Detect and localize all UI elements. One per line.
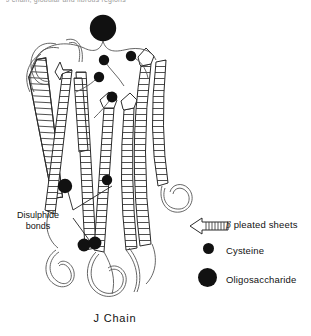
legend-label-beta-sheets-rest: pleated sheets <box>231 219 298 230</box>
cysteine-marker <box>94 72 104 82</box>
beta-strand <box>134 48 154 246</box>
legend-label-cysteine: Cysteine <box>226 245 264 256</box>
figure-caption: J Chain <box>0 312 230 324</box>
cysteine-marker <box>89 237 102 250</box>
oligosaccharide-marker <box>90 15 116 41</box>
beta-strand <box>94 92 117 252</box>
legend-item-cysteine: Cysteine <box>186 240 311 266</box>
cysteine-marker <box>99 55 109 65</box>
beta-strand <box>152 60 168 186</box>
cysteine-swatch-icon <box>203 243 214 254</box>
disulphide-bonds-label-line2: bonds <box>26 221 51 231</box>
cysteine-marker <box>78 239 91 252</box>
oligosaccharide-swatch-icon <box>198 268 217 287</box>
disulphide-bonds-label: Disulphide bonds <box>4 210 72 232</box>
cysteine-marker <box>58 179 72 193</box>
legend-item-oligosaccharide: Oligosaccharide <box>186 266 311 292</box>
disulphide-bonds-label-line1: Disulphide <box>17 210 59 220</box>
legend-label-oligosaccharide: Oligosaccharide <box>226 274 296 285</box>
cysteine-marker <box>107 92 118 103</box>
legend-item-beta-sheets: β pleated sheets <box>186 214 311 240</box>
cysteine-marker <box>126 51 136 61</box>
legend-label-beta-sheets: β pleated sheets <box>226 219 298 230</box>
cysteine-marker <box>102 175 112 185</box>
legend: β pleated sheets Cysteine Oligosaccharid… <box>186 214 311 294</box>
